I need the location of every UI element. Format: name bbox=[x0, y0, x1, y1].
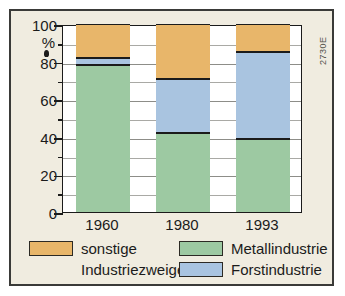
x-tick-label-1960: 1960 bbox=[85, 216, 118, 233]
bar-segment-1980-sonstige-industriezweige[interactable] bbox=[156, 24, 209, 79]
legend-label-forstindustrie: Forstindustrie bbox=[231, 260, 322, 279]
y-tick-minor-50 bbox=[58, 119, 63, 121]
cursor-artifact-icon bbox=[44, 50, 49, 57]
y-tick-major-40 bbox=[54, 138, 63, 140]
legend-column-left: sonstige Industriezweige bbox=[29, 239, 185, 281]
bar-1993[interactable] bbox=[237, 24, 289, 212]
y-tick-major-60 bbox=[54, 100, 63, 102]
bar-segment-1993-forstindustrie[interactable] bbox=[236, 52, 289, 138]
y-tick-major-0 bbox=[54, 213, 63, 215]
x-tick-label-1980: 1980 bbox=[165, 216, 198, 233]
y-tick-major-80 bbox=[54, 63, 63, 65]
y-axis-unit-label: % bbox=[42, 35, 55, 50]
legend-item-sonstige-line2: Industriezweige bbox=[29, 260, 185, 281]
legend-column-right: Metallindustrie Forstindustrie bbox=[179, 239, 328, 281]
x-tick-label-1993: 1993 bbox=[245, 216, 278, 233]
bar-1980[interactable] bbox=[157, 24, 209, 212]
bar-1960[interactable] bbox=[77, 24, 129, 212]
legend-label-metallindustrie: Metallindustrie bbox=[231, 239, 328, 258]
y-tick-minor-10 bbox=[58, 194, 63, 196]
legend-item-forstindustrie[interactable]: Forstindustrie bbox=[179, 260, 328, 281]
bar-segment-1960-sonstige-industriezweige[interactable] bbox=[76, 24, 129, 58]
chart-figure: 2730E 020406080100% 196019801993 sonstig… bbox=[9, 9, 334, 286]
chart-legend: sonstige Industriezweige Metallindustrie… bbox=[11, 239, 332, 285]
bar-segment-1993-metallindustrie[interactable] bbox=[236, 139, 289, 212]
x-axis: 196019801993 bbox=[62, 216, 302, 238]
legend-swatch-metallindustrie bbox=[179, 241, 223, 256]
bar-segment-1993-sonstige-industriezweige[interactable] bbox=[236, 24, 289, 52]
legend-item-sonstige-industriezweige[interactable]: sonstige bbox=[29, 239, 185, 260]
legend-item-metallindustrie[interactable]: Metallindustrie bbox=[179, 239, 328, 260]
legend-label-industriezweige: Industriezweige bbox=[81, 260, 185, 279]
legend-swatch-sonstige-industriezweige bbox=[29, 241, 73, 256]
bar-segment-1980-metallindustrie[interactable] bbox=[156, 133, 209, 212]
y-axis: 020406080100% bbox=[19, 25, 61, 213]
bar-segment-1980-forstindustrie[interactable] bbox=[156, 79, 209, 134]
y-tick-minor-70 bbox=[58, 82, 63, 84]
y-tick-major-100 bbox=[54, 25, 63, 27]
y-tick-major-20 bbox=[54, 176, 63, 178]
chart-plot-region: 020406080100% 196019801993 bbox=[11, 11, 332, 226]
bar-segment-1960-metallindustrie[interactable] bbox=[76, 65, 129, 212]
y-tick-minor-90 bbox=[58, 44, 63, 46]
bar-segment-1960-forstindustrie[interactable] bbox=[76, 58, 129, 66]
plot-area bbox=[62, 25, 302, 213]
legend-swatch-forstindustrie bbox=[179, 262, 223, 277]
legend-label-sonstige: sonstige bbox=[81, 239, 137, 258]
y-tick-minor-30 bbox=[58, 157, 63, 159]
